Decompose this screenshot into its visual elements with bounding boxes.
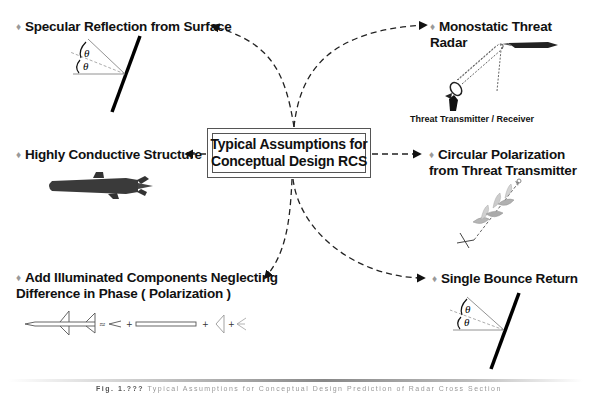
- svg-text:θ: θ: [464, 316, 470, 328]
- assumption-label-line-2: Radar: [430, 35, 552, 50]
- arrow-to-components: [265, 179, 292, 278]
- arrow-to-specular: [212, 26, 294, 127]
- connector-arrows-layer: θ θ θ θ: [0, 0, 591, 394]
- assumption-highly-conductive: ♦Highly Conductive Structure: [16, 147, 202, 163]
- diamond-bullet-icon: ♦: [16, 21, 21, 32]
- central-title-line-2: Conceptual Design RCS: [211, 153, 367, 170]
- threat-transmitter-receiver-label: Threat Transmitter / Receiver: [410, 114, 534, 124]
- radar-illustration: [445, 44, 503, 111]
- central-assumptions-box: Typical Assumptions for Conceptual Desig…: [207, 128, 371, 178]
- diamond-bullet-icon: ♦: [432, 273, 437, 284]
- single-bounce-diagram: θ θ: [450, 293, 519, 369]
- arrow-to-monostatic: [294, 25, 426, 127]
- svg-text:θ: θ: [84, 47, 90, 59]
- svg-text:+: +: [202, 320, 209, 329]
- arrow-to-single-bounce: [293, 179, 424, 278]
- central-assumptions-inner-frame: Typical Assumptions for Conceptual Desig…: [212, 133, 366, 173]
- assumption-label-line-2: Difference in Phase ( Polarization ): [16, 286, 278, 301]
- diamond-bullet-icon: ♦: [16, 149, 21, 160]
- assumption-label: Highly Conductive Structure: [25, 147, 202, 162]
- assumption-add-illuminated-components: ♦Add Illuminated Components Neglecting D…: [16, 270, 278, 301]
- assumption-label-line-1: Circular Polarization: [438, 147, 565, 162]
- assumption-label-line-1: Monostatic Threat: [439, 19, 552, 34]
- specular-reflection-diagram: θ θ: [70, 36, 140, 112]
- diamond-bullet-icon: ♦: [16, 272, 21, 283]
- component-decomposition-illustration: ≈ + + +: [25, 311, 246, 335]
- central-title-line-1: Typical Assumptions for: [210, 136, 367, 153]
- svg-text:≈: ≈: [99, 320, 106, 329]
- assumption-single-bounce: ♦Single Bounce Return: [432, 271, 578, 287]
- assumption-monostatic-radar: ♦Monostatic Threat Radar: [430, 19, 552, 50]
- assumption-circular-polarization: ♦Circular Polarization from Threat Trans…: [429, 147, 577, 178]
- caption-prefix: Fig. 1.???: [96, 385, 144, 392]
- assumption-specular-reflection: ♦Specular Reflection from Surface: [16, 19, 232, 35]
- caption-divider: [8, 379, 583, 382]
- diamond-bullet-icon: ♦: [430, 21, 435, 32]
- assumption-label-line-1: Add Illuminated Components Neglecting: [25, 270, 278, 285]
- svg-text:θ: θ: [83, 60, 89, 72]
- missile-silhouette: [49, 172, 153, 199]
- svg-text:+: +: [228, 320, 235, 329]
- figure-caption: Fig. 1.??? Typical Assumptions for Conce…: [96, 385, 502, 392]
- diamond-bullet-icon: ♦: [429, 149, 434, 160]
- assumption-label-line-2: from Threat Transmitter: [429, 163, 577, 178]
- svg-text:+: +: [126, 320, 133, 329]
- svg-text:θ: θ: [465, 303, 471, 315]
- caption-text: Typical Assumptions for Conceptual Desig…: [147, 385, 502, 392]
- assumption-label: Specular Reflection from Surface: [25, 19, 232, 34]
- assumption-label: Single Bounce Return: [441, 271, 578, 286]
